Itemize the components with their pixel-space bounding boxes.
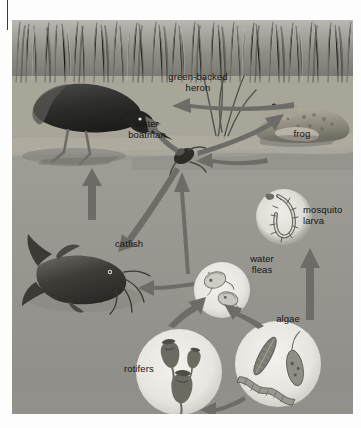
label-water-boatman: water boatman [118, 119, 176, 140]
illustration-canvas: green-backed heron water boatman frog mo… [12, 20, 353, 414]
label-rotifers: rotifers [124, 364, 174, 375]
label-frog: frog [285, 129, 319, 140]
label-green-backed-heron: green-backed heron [150, 72, 246, 93]
label-catfish: catfish [115, 239, 163, 250]
label-water-fleas: water fleas [241, 254, 283, 275]
algae-inset [235, 321, 321, 408]
label-mosquito-larva: mosquito larva [303, 205, 353, 226]
label-algae: algae [267, 314, 309, 325]
pond-food-web-figure: green-backed heron water boatman frog mo… [0, 0, 361, 428]
page-edge-rule [7, 0, 8, 30]
